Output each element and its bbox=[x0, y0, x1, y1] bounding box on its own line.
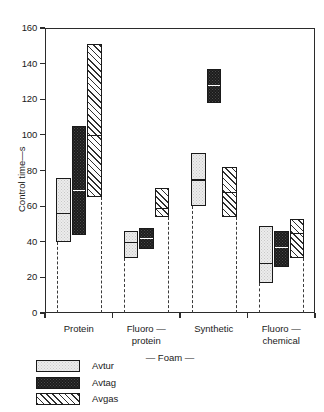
whisker-stem bbox=[259, 283, 260, 313]
y-tick-label: 160 bbox=[11, 22, 37, 33]
y-tick-mark bbox=[40, 241, 45, 242]
y-tick-label: 20 bbox=[11, 271, 37, 282]
legend-item-avtag: Avtag bbox=[36, 377, 176, 390]
y-tick-mark bbox=[40, 134, 45, 135]
y-tick-label: 40 bbox=[11, 236, 37, 247]
legend-label: Avgas bbox=[92, 393, 118, 405]
chart-figure: Control time—s 020406080100120140160 Pro… bbox=[0, 0, 324, 412]
whisker-stem bbox=[236, 217, 237, 313]
range-box-avtur bbox=[191, 153, 206, 206]
median-line bbox=[57, 213, 70, 214]
legend-swatch-avgas bbox=[36, 393, 80, 405]
whisker-stem bbox=[168, 217, 169, 313]
median-line bbox=[223, 192, 236, 193]
range-box-avgas bbox=[155, 188, 170, 217]
median-line bbox=[156, 208, 169, 209]
y-tick-mark bbox=[40, 27, 45, 28]
y-tick-label: 100 bbox=[11, 129, 37, 140]
y-tick-label: 120 bbox=[11, 93, 37, 104]
y-tick-label: 80 bbox=[11, 165, 37, 176]
range-box-avgas bbox=[87, 44, 102, 197]
range-box-avtag bbox=[139, 228, 154, 249]
whisker-stem bbox=[192, 206, 193, 313]
x-tick-mark bbox=[314, 313, 315, 318]
y-tick-mark bbox=[40, 206, 45, 207]
whisker-stem bbox=[101, 197, 102, 313]
y-tick-mark bbox=[40, 277, 45, 278]
y-tick-label: 60 bbox=[11, 200, 37, 211]
median-line bbox=[192, 179, 205, 180]
y-tick-mark bbox=[40, 63, 45, 64]
legend-item-avgas: Avgas bbox=[36, 393, 176, 406]
y-tick-mark bbox=[40, 99, 45, 100]
range-box-avgas bbox=[290, 219, 305, 258]
median-line bbox=[291, 233, 304, 234]
median-line bbox=[73, 190, 86, 191]
median-line bbox=[88, 135, 101, 136]
x-tick-mark bbox=[112, 313, 113, 318]
chart-legend: AvturAvtagAvgas bbox=[36, 360, 186, 410]
y-tick-label: 140 bbox=[11, 58, 37, 69]
median-line bbox=[275, 247, 288, 248]
x-group-label: Fluoro — chemical bbox=[241, 323, 321, 346]
y-tick-mark bbox=[40, 170, 45, 171]
median-line bbox=[260, 263, 273, 264]
x-tick-mark bbox=[179, 313, 180, 318]
legend-item-avtur: Avtur bbox=[36, 360, 176, 373]
range-box-avgas bbox=[222, 167, 237, 217]
whisker-stem bbox=[303, 258, 304, 313]
median-line bbox=[125, 242, 138, 243]
range-box-avtag bbox=[72, 126, 87, 235]
legend-label: Avtur bbox=[92, 360, 114, 372]
whisker-stem bbox=[124, 258, 125, 313]
legend-swatch-avtur bbox=[36, 360, 80, 372]
range-box-avtur bbox=[56, 178, 71, 242]
legend-swatch-avtag bbox=[36, 377, 80, 389]
range-box-avtur bbox=[259, 226, 274, 283]
range-box-avtur bbox=[124, 231, 139, 258]
median-line bbox=[140, 238, 153, 239]
y-tick-label: 0 bbox=[11, 307, 37, 318]
x-tick-mark bbox=[247, 313, 248, 318]
range-box-avtag bbox=[207, 69, 222, 103]
whisker-stem bbox=[57, 242, 58, 313]
legend-label: Avtag bbox=[92, 377, 116, 389]
range-box-avtag bbox=[274, 231, 289, 267]
median-line bbox=[208, 85, 221, 86]
x-tick-mark bbox=[44, 313, 45, 318]
